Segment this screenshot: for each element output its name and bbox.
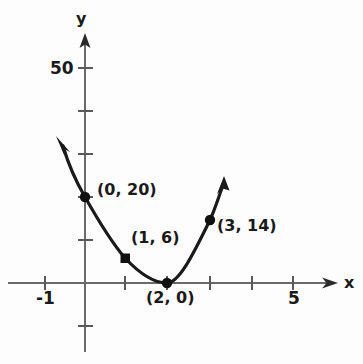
x-tick-label-5: 5 bbox=[288, 290, 300, 307]
curve-left-arrowhead bbox=[56, 136, 70, 156]
data-point-marker-1-6 bbox=[121, 254, 131, 264]
y-tick-label-50: 50 bbox=[50, 60, 74, 77]
point-annotation-2-0: (2, 0) bbox=[146, 290, 195, 306]
point-annotation-3-14: (3, 14) bbox=[217, 218, 277, 234]
data-point-marker-0-20 bbox=[80, 192, 90, 202]
y-axis-label: y bbox=[76, 11, 86, 27]
point-annotation-1-6: (1, 6) bbox=[131, 230, 180, 246]
data-point-marker-2-0 bbox=[162, 278, 172, 288]
chart-figure: y x 50 -1 5 (0, 20) (1, 6) (2, 0) (3, 14… bbox=[0, 0, 363, 364]
x-tick-label-minus-1: -1 bbox=[36, 290, 55, 307]
parabola-curve bbox=[63, 146, 222, 283]
chart-canvas bbox=[0, 0, 363, 364]
x-axis-label: x bbox=[344, 275, 354, 291]
data-point-marker-3-14 bbox=[205, 215, 215, 225]
point-annotation-0-20: (0, 20) bbox=[97, 182, 157, 198]
curve-right-arrowhead bbox=[217, 176, 230, 194]
